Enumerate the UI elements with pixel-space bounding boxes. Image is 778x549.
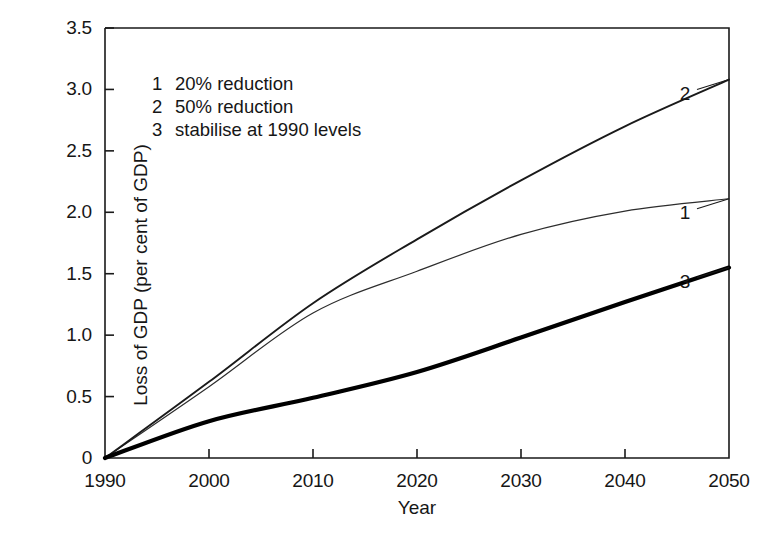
x-tick-marks [209, 449, 625, 458]
legend-label: 50% reduction [175, 95, 293, 118]
series-leader-lines [697, 80, 729, 278]
y-tick-label: 1.5 [30, 263, 92, 285]
x-tick-label: 2030 [500, 470, 541, 492]
y-tick-label: 2.5 [30, 140, 92, 162]
series-line-3 [105, 268, 729, 458]
series-line-1 [105, 199, 729, 458]
y-tick-label: 0.5 [30, 386, 92, 408]
y-axis-title: Loss of GDP (per cent of GDP) [130, 144, 152, 406]
legend-label: 20% reduction [175, 72, 293, 95]
series-end-label-3: 3 [680, 271, 691, 293]
x-axis-title: Year [398, 497, 436, 519]
leader-line-3 [697, 268, 729, 278]
legend-key: 2 [152, 95, 175, 118]
legend-item: 3stabilise at 1990 levels [152, 118, 361, 141]
legend-item: 120% reduction [152, 72, 361, 95]
chart-figure: 00.51.01.52.02.53.03.5 19902000201020202… [0, 0, 778, 549]
x-tick-label: 2000 [188, 470, 229, 492]
series-end-label-2: 2 [680, 83, 691, 105]
x-tick-label: 2020 [396, 470, 437, 492]
y-tick-label: 2.0 [30, 201, 92, 223]
y-tick-label: 3.5 [30, 17, 92, 39]
y-tick-label: 1.0 [30, 324, 92, 346]
y-tick-label: 3.0 [30, 78, 92, 100]
legend-item: 250% reduction [152, 95, 361, 118]
legend-key: 1 [152, 72, 175, 95]
plot-canvas [0, 0, 778, 549]
y-tick-label: 0 [30, 447, 92, 469]
series-end-label-1: 1 [680, 202, 691, 224]
x-tick-label: 2010 [292, 470, 333, 492]
legend: 120% reduction250% reduction3stabilise a… [152, 72, 361, 141]
x-tick-label: 2040 [604, 470, 645, 492]
legend-key: 3 [152, 118, 175, 141]
x-tick-label: 1990 [84, 470, 125, 492]
leader-line-2 [697, 80, 729, 90]
legend-label: stabilise at 1990 levels [175, 118, 361, 141]
y-tick-marks [105, 28, 114, 397]
x-tick-label: 2050 [708, 470, 749, 492]
